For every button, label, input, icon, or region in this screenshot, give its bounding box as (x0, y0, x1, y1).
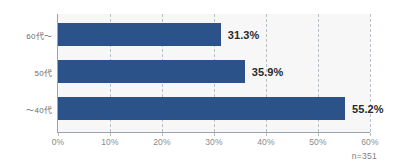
horizontal-bar-chart: 31.3%35.9%55.2% 0%10%20%30%40%50%60% n=3… (0, 0, 394, 167)
category-label: 50代 (0, 67, 52, 78)
x-tick-label: 10% (101, 137, 119, 147)
bar-row[interactable]: 31.3% (58, 23, 370, 46)
tick-mark (370, 133, 371, 136)
x-tick-label: 50% (309, 137, 327, 147)
tick-mark (110, 133, 111, 136)
bar-row[interactable]: 35.9% (58, 60, 370, 83)
category-label: 60代〜 (0, 30, 52, 41)
x-axis-line (57, 132, 370, 133)
tick-mark (266, 133, 267, 136)
category-label: 〜40代 (0, 104, 52, 115)
bar-value-label: 35.9% (252, 66, 284, 78)
x-tick-label: 40% (257, 137, 275, 147)
bar-value-label: 31.3% (228, 29, 260, 41)
sample-size-annotation: n=351 (352, 151, 377, 161)
tick-mark (162, 133, 163, 136)
tick-mark (318, 133, 319, 136)
tick-mark (58, 133, 59, 136)
bar[interactable] (58, 60, 245, 83)
bar-row[interactable]: 55.2% (58, 97, 370, 120)
x-tick-label: 60% (361, 137, 379, 147)
bar[interactable] (58, 23, 221, 46)
x-tick-label: 0% (52, 137, 65, 147)
x-tick-label: 20% (153, 137, 171, 147)
tick-mark (214, 133, 215, 136)
bar[interactable] (58, 97, 345, 120)
x-tick-label: 30% (205, 137, 223, 147)
bar-value-label: 55.2% (352, 103, 384, 115)
